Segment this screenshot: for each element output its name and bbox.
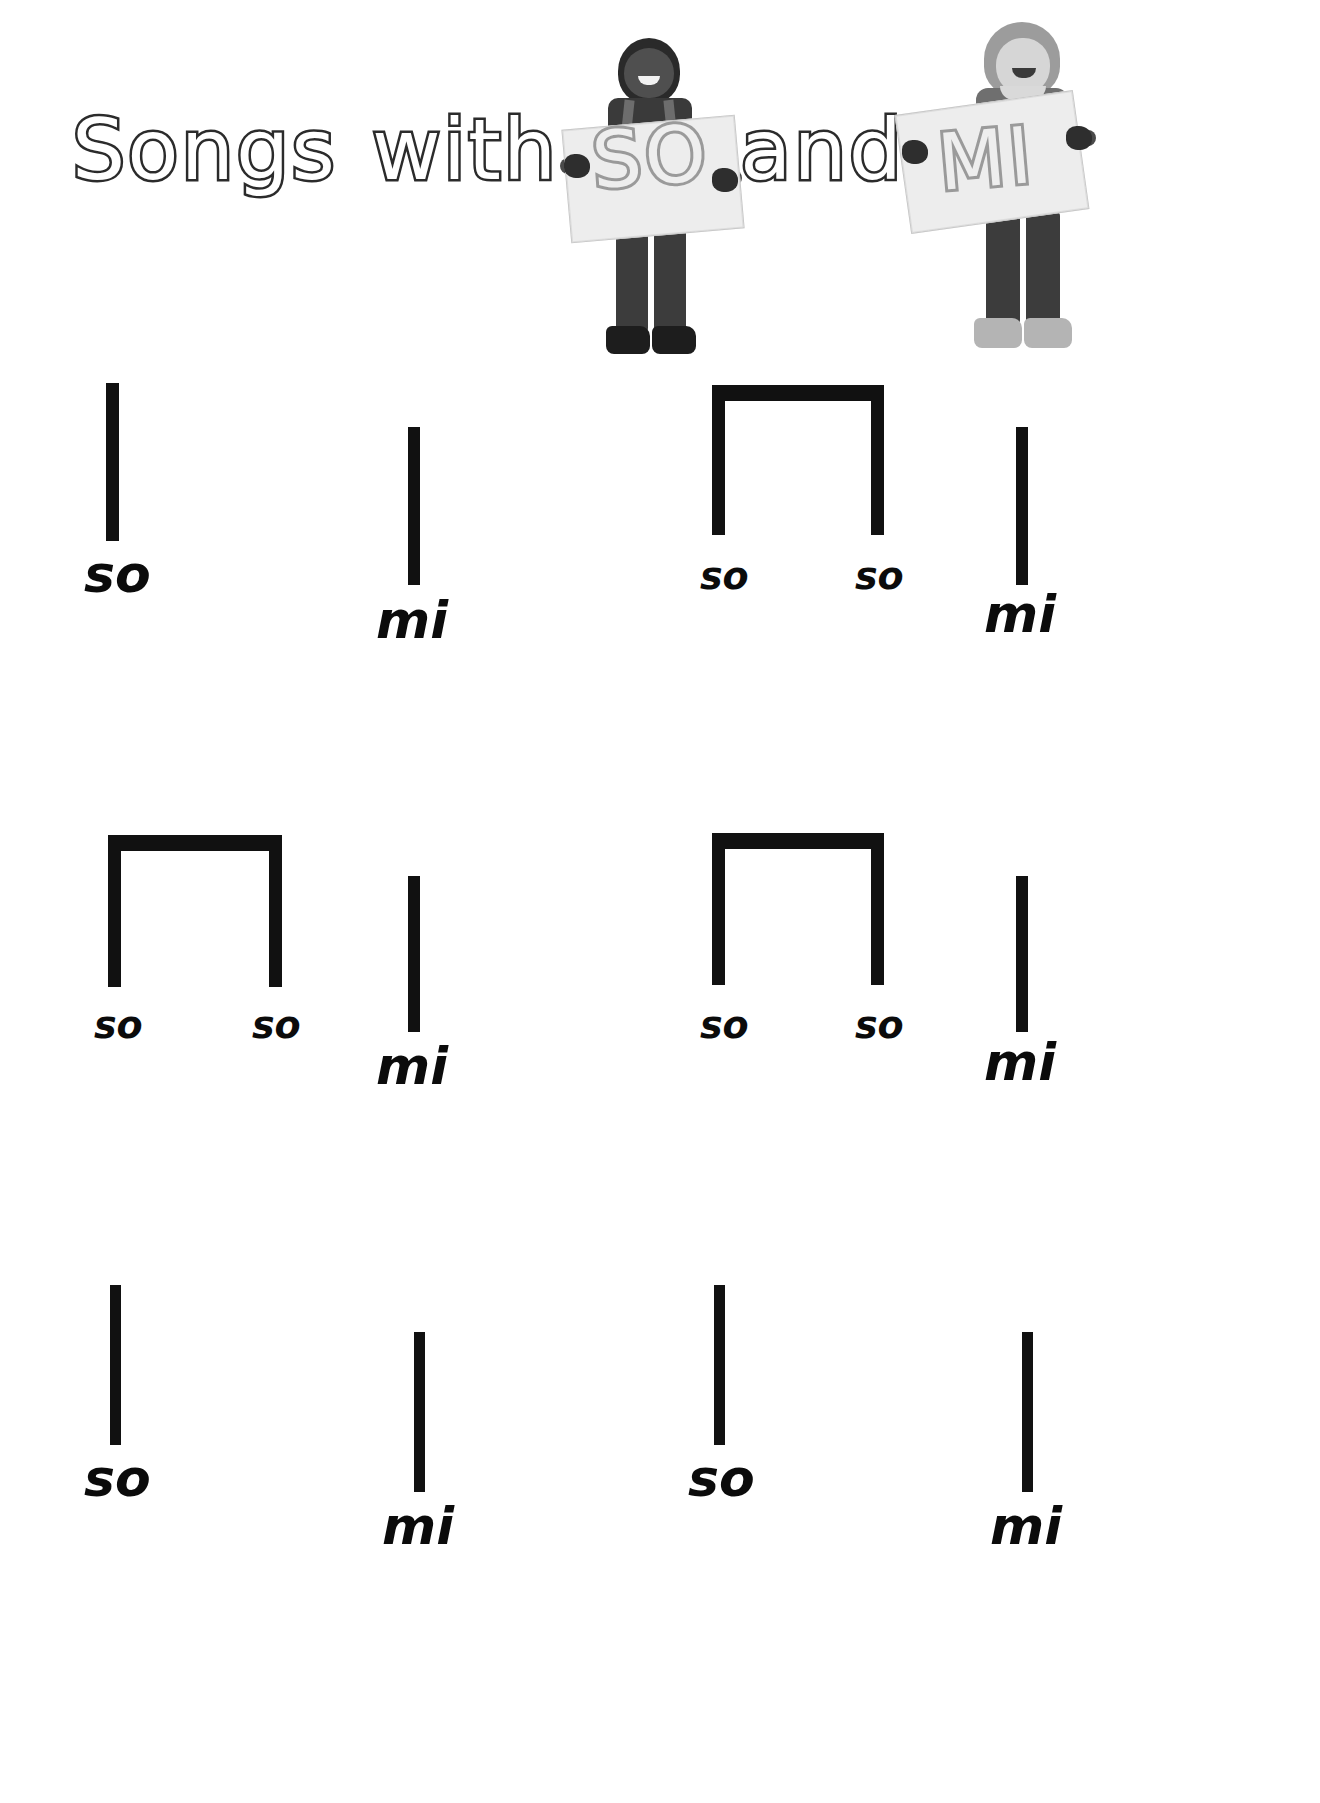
- syllable-so: so: [855, 1006, 904, 1044]
- syllable-mi: mi: [382, 1500, 454, 1552]
- note-stem: [110, 1285, 121, 1445]
- syllable-mi: mi: [990, 1500, 1062, 1552]
- syllable-mi: mi: [376, 1040, 448, 1092]
- note-stem: [1022, 1332, 1033, 1492]
- note-stem: [1016, 427, 1028, 585]
- note-stem: [414, 1332, 425, 1492]
- syllable-mi: mi: [984, 588, 1056, 640]
- notation-row-2: [0, 820, 1320, 821]
- note-stem: [712, 385, 725, 535]
- syllable-so: so: [688, 1452, 755, 1504]
- notation-row-3: [0, 1280, 1320, 1281]
- syllable-mi: mi: [376, 594, 448, 646]
- notation-row-1: [0, 0, 1320, 1]
- note-stem: [871, 385, 884, 535]
- note-stem: [269, 835, 282, 987]
- syllable-so: so: [252, 1006, 301, 1044]
- note-stem: [108, 835, 121, 987]
- note-stem: [712, 833, 725, 985]
- note-stem: [408, 876, 420, 1032]
- note-stem: [1016, 876, 1028, 1032]
- note-stem: [408, 427, 420, 585]
- syllable-so: so: [700, 557, 749, 595]
- syllable-so: so: [84, 1452, 151, 1504]
- worksheet-page: Songs with and: [0, 0, 1320, 1803]
- note-stem: [714, 1285, 725, 1445]
- syllable-so: so: [855, 557, 904, 595]
- syllable-so: so: [94, 1006, 143, 1044]
- syllable-so: so: [84, 548, 151, 600]
- syllable-mi: mi: [984, 1036, 1056, 1088]
- notation-area: so mi so so mi so so mi so so mi: [0, 0, 1320, 1803]
- note-beam: [712, 385, 884, 401]
- note-beam: [712, 833, 884, 849]
- syllable-so: so: [700, 1006, 749, 1044]
- note-stem: [106, 383, 119, 541]
- note-stem: [871, 833, 884, 985]
- note-beam: [108, 835, 282, 851]
